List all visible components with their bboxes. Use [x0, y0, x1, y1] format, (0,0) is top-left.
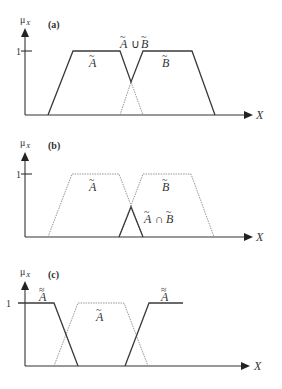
- x-axis-label: X: [253, 359, 262, 373]
- x-axis-arrowhead-icon: [244, 111, 253, 119]
- y-axis-label-mu: μ: [20, 137, 25, 148]
- panel-label: (c): [48, 269, 59, 281]
- intersection-outline: [119, 207, 143, 237]
- y-axis-label-subscript: X: [25, 271, 31, 279]
- set-a-label: A: [95, 310, 104, 324]
- panel-a-union: 1 μ X (a) X ~ A ~ B ~ A ∪ ~ B: [16, 14, 264, 122]
- x-axis-label: X: [255, 230, 264, 244]
- complement-right-label: A: [160, 290, 169, 304]
- svg-text:B: B: [166, 212, 174, 226]
- svg-text:∩: ∩: [155, 212, 164, 226]
- y-axis-label-subscript: X: [25, 142, 31, 150]
- x-axis-label: X: [255, 108, 264, 122]
- set-a-label: A: [88, 180, 97, 194]
- complement-left: [18, 303, 78, 366]
- panel-label: (b): [48, 140, 60, 152]
- panel-b-intersection: 1 μ X (b) X ~ A ~ B ~ A ∩ ~ B: [16, 137, 264, 244]
- set-a-label: A: [88, 56, 97, 70]
- complement-left-label: A: [38, 290, 47, 304]
- panel-c-complement: 1 μ X (c) X ~ A ≈ A ≈ A: [6, 266, 262, 373]
- complement-right: [125, 303, 183, 366]
- y-axis-arrowhead-icon: [21, 281, 29, 290]
- svg-text:A: A: [119, 37, 128, 51]
- y-axis-label-mu: μ: [20, 14, 25, 25]
- y-axis-arrowhead-icon: [21, 28, 29, 37]
- svg-text:∪: ∪: [131, 37, 140, 51]
- y-axis-arrowhead-icon: [21, 152, 29, 161]
- svg-text:B: B: [141, 37, 149, 51]
- svg-text:A: A: [143, 212, 152, 226]
- set-b-label: B: [162, 180, 170, 194]
- intersection-label: ~ A ∩ ~ B: [143, 206, 174, 226]
- tick-label-one: 1: [6, 298, 11, 309]
- panel-label: (a): [48, 19, 60, 31]
- set-b-label: B: [162, 56, 170, 70]
- set-a-hidden-slope: [131, 82, 143, 115]
- tick-label-one: 1: [16, 46, 21, 57]
- union-label: ~ A ∪ ~ B: [119, 31, 149, 51]
- x-axis-arrowhead-icon: [241, 362, 250, 370]
- y-axis-label-subscript: X: [25, 19, 31, 27]
- fuzzy-set-operations-figure: 1 μ X (a) X ~ A ~ B ~ A ∪ ~ B 1 μ X (b): [0, 0, 282, 389]
- x-axis-arrowhead-icon: [244, 233, 253, 241]
- tick-label-one: 1: [16, 169, 21, 180]
- set-b-hidden-slope: [120, 82, 131, 115]
- y-axis-label-mu: μ: [20, 266, 25, 277]
